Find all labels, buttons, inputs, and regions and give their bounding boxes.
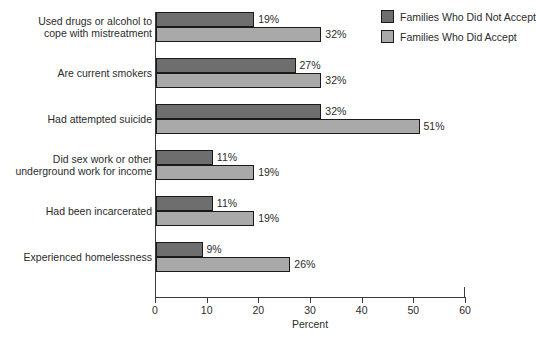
category-label: Had attempted suicide xyxy=(48,113,152,126)
bar xyxy=(156,196,213,211)
bar-value-label: 9% xyxy=(207,242,222,257)
x-axis-tick xyxy=(207,297,208,303)
legend-swatch-icon xyxy=(381,30,394,43)
bar xyxy=(156,257,290,272)
x-axis-tick-label: 10 xyxy=(201,304,213,316)
bar xyxy=(156,211,254,226)
category-label: Are current smokers xyxy=(57,67,152,80)
bar-group: 9%26% xyxy=(156,242,466,272)
bar xyxy=(156,242,203,257)
bar-group: 11%19% xyxy=(156,196,466,226)
plot-area: 19%32%27%32%32%51%11%19%11%19%9%26% xyxy=(155,12,466,297)
legend-item[interactable]: Families Who Did Accept xyxy=(381,30,536,43)
bar-group: 32%51% xyxy=(156,104,466,134)
category-label: Used drugs or alcohol to cope with mistr… xyxy=(38,15,152,40)
legend: Families Who Did Not AcceptFamilies Who … xyxy=(381,10,536,50)
category-label: Experienced homelessness xyxy=(24,251,152,264)
bar-value-label: 32% xyxy=(325,73,346,88)
x-axis-tick-label: 20 xyxy=(252,304,264,316)
x-axis-tick-label: 40 xyxy=(356,304,368,316)
x-axis-tick xyxy=(310,297,311,303)
bar xyxy=(156,150,213,165)
bar-group: 11%19% xyxy=(156,150,466,180)
x-axis-tick xyxy=(362,297,363,303)
x-axis-tick xyxy=(155,297,156,303)
x-axis-tick xyxy=(258,297,259,303)
x-axis-tick-label: 50 xyxy=(407,304,419,316)
legend-swatch-icon xyxy=(381,10,394,23)
x-axis-tick xyxy=(465,297,466,303)
x-axis-tick-label: 30 xyxy=(304,304,316,316)
bar xyxy=(156,119,420,134)
bar xyxy=(156,104,321,119)
x-axis-tick-label: 60 xyxy=(459,304,471,316)
bar xyxy=(156,27,321,42)
x-axis-title: Percent xyxy=(155,318,465,330)
bar-value-label: 32% xyxy=(325,27,346,42)
bar xyxy=(156,165,254,180)
bar-value-label: 19% xyxy=(258,211,279,226)
x-axis-right-cap xyxy=(464,287,465,297)
bar-value-label: 32% xyxy=(325,104,346,119)
bar-group: 27%32% xyxy=(156,58,466,88)
x-axis-tick-label: 0 xyxy=(152,304,158,316)
legend-item[interactable]: Families Who Did Not Accept xyxy=(381,10,536,23)
bar xyxy=(156,73,321,88)
bar xyxy=(156,12,254,27)
bar-value-label: 11% xyxy=(217,196,237,211)
category-label: Did sex work or other underground work f… xyxy=(15,153,152,178)
legend-label: Families Who Did Accept xyxy=(400,31,517,43)
bar-value-label: 26% xyxy=(294,257,315,272)
bar-value-label: 11% xyxy=(217,150,237,165)
category-label: Had been incarcerated xyxy=(46,205,152,218)
bar-value-label: 27% xyxy=(300,58,321,73)
legend-label: Families Who Did Not Accept xyxy=(400,11,536,23)
x-axis-tick xyxy=(413,297,414,303)
bar-value-label: 19% xyxy=(258,165,279,180)
bar xyxy=(156,58,296,73)
bar-value-label: 51% xyxy=(424,119,445,134)
bar-value-label: 19% xyxy=(258,12,279,27)
